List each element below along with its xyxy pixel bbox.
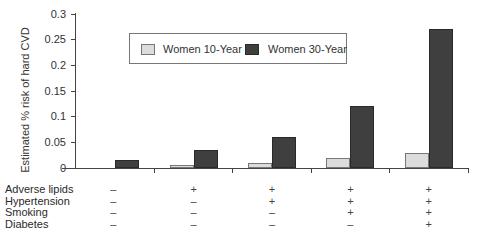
minus-sign: – <box>108 184 118 195</box>
plus-sign: + <box>189 184 199 195</box>
plus-sign: + <box>267 184 277 195</box>
minus-sign: – <box>267 207 277 218</box>
y-tick-label: 0.25 <box>45 33 66 45</box>
y-axis-line <box>75 13 76 169</box>
bar-women-30-year <box>115 160 139 168</box>
y-tick-label: 0.1 <box>51 110 66 122</box>
plus-sign: + <box>345 184 355 195</box>
bar-women-10-year <box>326 158 350 168</box>
bar-women-10-year <box>405 153 429 168</box>
bar-women-30-year <box>272 137 296 168</box>
legend-swatch-10-year <box>141 44 155 55</box>
factor-label-diabetes: Diabetes <box>5 219 48 230</box>
bar-women-30-year <box>194 150 218 168</box>
plus-sign: + <box>424 184 434 195</box>
legend-label-30-year: Women 30-Year <box>268 43 347 56</box>
plus-sign: + <box>424 219 434 230</box>
minus-sign: – <box>189 219 199 230</box>
legend-label-10-year: Women 10-Year <box>163 43 242 56</box>
y-axis-label: Estimated % risk of hard CVD <box>19 27 31 173</box>
minus-sign: – <box>345 219 355 230</box>
x-tick <box>232 168 233 173</box>
y-tick-label: 0.3 <box>51 8 66 20</box>
legend-swatch-30-year <box>245 44 259 55</box>
legend: Women 10-Year Women 30-Year <box>129 33 347 64</box>
minus-sign: – <box>267 219 277 230</box>
plus-sign: + <box>345 207 355 218</box>
y-tick-label: 0.05 <box>45 136 66 148</box>
x-tick <box>154 168 155 173</box>
minus-sign: – <box>108 219 118 230</box>
y-tick-label: 0.2 <box>51 59 66 71</box>
x-tick <box>389 168 390 173</box>
y-tick-label: 0.15 <box>45 85 66 97</box>
factor-label-adverse-lipids: Adverse lipids <box>5 184 73 195</box>
factor-label-smoking: Smoking <box>5 207 48 218</box>
x-tick <box>468 168 469 173</box>
bar-women-30-year <box>429 29 453 168</box>
bar-women-10-year <box>170 165 194 168</box>
bar-women-30-year <box>350 106 374 168</box>
bar-women-10-year <box>248 163 272 168</box>
minus-sign: – <box>108 207 118 218</box>
x-tick <box>311 168 312 173</box>
plus-sign: + <box>424 207 434 218</box>
minus-sign: – <box>189 207 199 218</box>
